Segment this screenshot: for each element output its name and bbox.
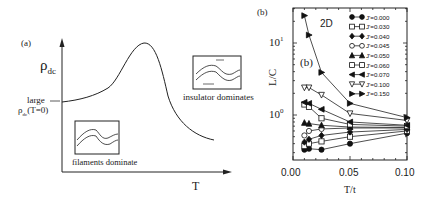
legend-item: J'=0.150 (350, 90, 390, 97)
y-axis-title: L/C (267, 69, 278, 86)
panel-b-label-outer: (b) (257, 8, 268, 17)
inset-left-caption: filaments dominate (72, 158, 137, 167)
y-axis-symbol: ρ (40, 57, 48, 73)
series-j-0-100 (302, 85, 410, 124)
ytick-10-1: 101 (269, 36, 284, 48)
dimension-label: 2D (320, 19, 333, 29)
legend-label: J'=0.150 (366, 90, 390, 97)
x-axis-title: T/t (344, 185, 356, 195)
legend-item: J'=0.070 (349, 71, 390, 78)
y-axis-label: ρdc (40, 58, 56, 76)
legend-label: J'=0.040 (366, 33, 390, 40)
legend-item: J'=0.000 (350, 14, 390, 21)
y-axis-subscript: dc (48, 66, 57, 76)
legend-label: J'=0.070 (366, 71, 390, 78)
legend-label: J'=0.050 (366, 52, 390, 59)
legend-item: J'=0.040 (350, 33, 390, 40)
series-j-0-150 (302, 13, 410, 121)
legend-label: J'=0.000 (366, 14, 390, 21)
annotation-large: large (27, 96, 45, 105)
x-axis-label: T (192, 180, 199, 192)
legend-item: J'=0.045 (350, 42, 390, 49)
legend-item: J'=0.030 (350, 23, 390, 30)
xtick-0-10: 0.10 (395, 168, 414, 178)
inset-right-caption: insulator dominates (183, 93, 254, 102)
ytick-10-0: 100 (269, 108, 284, 120)
series-j-0-000 (302, 131, 410, 153)
annotation-rho-t0: ρdc(T=0) (18, 106, 48, 117)
legend-label: J'=0.045 (366, 42, 390, 49)
panel-a-label: (a) (21, 39, 31, 48)
xtick-0-00: 0.00 (281, 168, 300, 178)
panel-b-label-inner: (b) (300, 57, 313, 68)
annotation-rho-argument: (T=0) (27, 105, 48, 115)
legend-item: J'=0.050 (349, 52, 390, 59)
legend-item: J'=0.060 (350, 62, 390, 69)
legend-label: J'=0.100 (366, 81, 390, 88)
panel-b-chart: J'=0.000J'=0.030J'=0.040J'=0.045J'=0.050… (255, 0, 432, 203)
panel-a-schematic: (a) ρdc large ρdc(T=0) insulator dominat… (0, 0, 255, 203)
legend-label: J'=0.030 (366, 23, 390, 30)
legend-item: J'=0.100 (349, 81, 390, 88)
xtick-0-05: 0.05 (339, 168, 358, 178)
legend-label: J'=0.060 (366, 62, 390, 69)
